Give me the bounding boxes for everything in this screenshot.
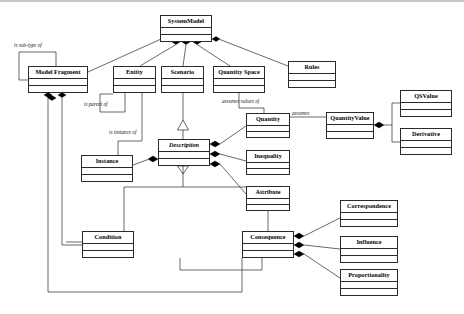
class-operations-quantity [247,132,289,137]
class-box-quantityvalue[interactable]: QuantityValue [326,112,374,139]
class-title-entity: Entity [114,67,155,79]
edge-label-is-parent-of: is parent of [84,102,107,107]
edge-systemmodel-scenario [183,45,186,67]
class-operations-qsvalue [401,110,451,116]
class-title-proportionality: Proportionality [341,270,397,282]
class-attributes-condition [83,244,133,251]
class-box-scenario[interactable]: Scenario [161,66,204,93]
class-operations-scenario [162,86,203,92]
class-attributes-modelfragment [29,79,87,86]
edge-modelfragment-condition [62,98,82,246]
edge-modelfragment-consequence [48,98,242,293]
class-box-influence[interactable]: Influence [340,236,398,263]
class-operations-instance [82,175,132,181]
class-title-derivative: Derivative [401,129,451,141]
class-box-modelfragment[interactable]: Model Fragment [28,66,88,93]
class-title-condition: Condition [83,232,133,244]
class-title-rules: Rules [289,62,335,74]
edge-quantityvalue-qsvalue [384,103,400,125]
class-box-quantityspace[interactable]: Quantity Space [213,66,265,93]
edge-consequence-bottom-stub [180,258,262,270]
class-operations-entity [114,86,155,92]
edge-label-assumes-values-of: assumes values of [222,99,259,104]
class-title-description: Description [159,140,209,152]
aggregation-diamond-description-attribute [210,161,220,167]
class-title-quantityspace: Quantity Space [214,67,264,79]
edge-instance-description [133,160,148,166]
class-operations-consequence [243,251,293,257]
edge-consequence-proportionality [304,254,340,278]
class-operations-quantityvalue [327,132,373,138]
class-operations-rules [289,81,335,87]
class-title-correspondence: Correspondence [341,201,397,213]
class-operations-quantityspace [214,86,264,92]
class-box-entity[interactable]: Entity [113,66,156,93]
aggregation-diamond-qsvalue [374,122,384,128]
class-attributes-correspondence [341,213,397,220]
aggregation-diamond-description-quantity [210,141,220,147]
class-box-consequence[interactable]: Consequence [242,231,294,258]
edge-systemmodel-entity [140,45,176,67]
class-operations-modelfragment [29,86,87,92]
class-title-scenario: Scenario [162,67,203,79]
edge-quantityvalue-derivative [392,125,400,142]
class-operations-systemmodel [161,35,211,41]
class-attributes-proportionality [341,282,397,289]
class-operations-derivative [401,148,451,154]
class-title-instance: Instance [82,156,132,168]
class-box-derivative[interactable]: Derivative [400,128,452,155]
edge-description-quantity [220,126,246,144]
edge-entity-instanceof [118,93,142,155]
edge-systemmodel-rules [220,40,288,67]
class-attributes-entity [114,79,155,86]
class-attributes-description [159,152,209,159]
class-attributes-instance [82,168,132,175]
class-attributes-derivative [401,141,451,148]
class-operations-inequality [247,169,289,174]
class-attributes-quantityvalue [327,125,373,132]
uml-class-diagram-canvas: .ln { stroke:#2a2a2a; stroke-width:0.7; … [0,0,464,314]
class-title-quantityvalue: QuantityValue [327,113,373,125]
edge-description-attribute [220,164,246,194]
class-box-description[interactable]: Description [158,139,210,166]
class-box-systemmodel[interactable]: SystemModel [160,15,212,42]
class-box-attribute[interactable]: Attribute [246,186,290,211]
class-attributes-systemmodel [161,28,211,35]
aggregation-diamond-instance-description [148,156,158,162]
class-box-correspondence[interactable]: Correspondence [340,200,398,227]
class-box-qsvalue[interactable]: QSValue [400,90,452,117]
class-attributes-rules [289,74,335,81]
class-box-inequality[interactable]: Inequality [246,150,290,175]
class-attributes-scenario [162,79,203,86]
class-attributes-consequence [243,244,293,251]
class-title-qsvalue: QSValue [401,91,451,103]
class-box-rules[interactable]: Rules [288,61,336,88]
class-box-instance[interactable]: Instance [81,155,133,182]
aggregation-diamond-influence [294,242,304,248]
edge-consequence-correspondence [304,218,340,236]
class-attributes-qsvalue [401,103,451,110]
aggregation-diamond-proportionality [294,251,304,257]
aggregation-diamond-correspondence [294,233,304,239]
class-title-influence: Influence [341,237,397,249]
aggregation-diamond-rules [212,37,220,42]
class-operations-description [159,159,209,165]
diagram-connector-layer: .ln { stroke:#2a2a2a; stroke-width:0.7; … [0,2,464,314]
aggregation-diamond-consequence-b [58,93,66,98]
class-title-quantity: Quantity [247,114,289,126]
class-title-attribute: Attribute [247,187,289,199]
edge-systemmodel-quantityspace [197,45,230,67]
class-operations-proportionality [341,289,397,295]
class-box-condition[interactable]: Condition [82,231,134,258]
class-title-consequence: Consequence [243,232,293,244]
generalization-triangle-scenario-description [178,120,189,130]
class-operations-attribute [247,205,289,210]
edge-description-inequality [220,154,246,161]
class-title-modelfragment: Model Fragment [29,67,87,79]
class-title-systemmodel: SystemModel [161,16,211,28]
class-attributes-influence [341,249,397,256]
class-box-proportionality[interactable]: Proportionality [340,269,398,296]
class-title-inequality: Inequality [247,151,289,163]
class-box-quantity[interactable]: Quantity [246,113,290,138]
edge-label-is-sub-type-of: is sub-type of [14,43,42,48]
